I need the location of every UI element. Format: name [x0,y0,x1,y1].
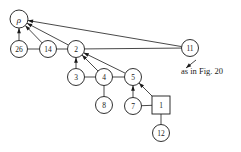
node-label: 11 [186,44,193,53]
node-n14[interactable]: 14 [40,41,57,58]
edge-line [84,48,181,49]
node-label: ρ [16,15,22,25]
node-n8[interactable]: 8 [96,97,113,114]
node-rho[interactable]: ρ [10,10,28,28]
edge-arrowhead [74,58,78,63]
node-label: 1 [159,101,163,110]
node-n26[interactable]: 26 [11,41,28,58]
edge-n14-rho [25,25,42,42]
node-n1[interactable]: 1 [152,96,170,114]
node-label: 8 [102,101,106,110]
node-label: 14 [44,45,52,54]
edge-n1-n5 [139,83,152,96]
edge-n2-n11 [84,48,181,49]
edge-arrowhead [131,86,135,91]
edge-arrowhead [84,53,90,57]
edge-arrowhead [27,23,32,27]
edge-arrowhead [17,28,21,33]
figure-caption: as in Fig. 20 [181,66,223,76]
edge-n7-n5 [131,86,135,98]
node-n5[interactable]: 5 [125,69,142,86]
node-n11[interactable]: 11 [182,40,199,57]
tree-diagram-svg: ρ261421134587112 as in Fig. 20 [0,0,241,152]
edge-n26-rho [17,28,21,41]
node-label: 2 [74,45,78,54]
node-n2[interactable]: 2 [68,41,85,58]
node-label: 5 [131,73,135,82]
node-n12[interactable]: 12 [153,125,170,142]
node-label: 7 [131,102,135,111]
annotation-layer: as in Fig. 20 [181,60,223,76]
node-n4[interactable]: 4 [96,69,113,86]
node-layer: ρ261421134587112 [10,10,199,142]
node-n3[interactable]: 3 [68,69,85,86]
node-n7[interactable]: 7 [125,98,142,115]
node-label: 4 [102,73,106,82]
edge-n3-n2 [74,58,78,69]
edge-n4-n2 [82,55,98,71]
node-label: 26 [15,45,23,54]
figure-canvas: ρ261421134587112 as in Fig. 20 [0,0,241,152]
node-label: 12 [157,129,165,138]
node-label: 3 [74,73,78,82]
edge-arrowhead [28,20,33,24]
